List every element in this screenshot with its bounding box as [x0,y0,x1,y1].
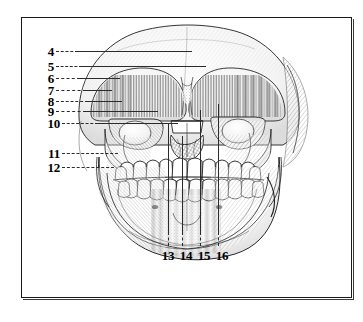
leader-line-5 [56,66,82,67]
callout-number-13: 13 [159,249,177,262]
leader-line-15-dash [200,232,201,246]
leader-line-11 [62,153,118,154]
leader-line-12 [62,167,114,168]
callout-number-15: 15 [195,249,213,262]
callout-number-11: 11 [26,147,60,160]
leader-line-10 [62,123,98,124]
leader-line-7 [56,90,86,91]
leader-line-4 [56,51,78,52]
callout-number-12: 12 [26,161,60,174]
leader-line-8-ext [88,101,122,102]
callout-number-16: 16 [213,249,231,262]
leader-line-15 [200,110,201,232]
leader-line-6-ext [80,78,120,79]
leader-line-6 [56,78,80,79]
leader-line-14 [182,136,183,232]
leader-line-9 [56,111,86,112]
callout-number-10: 10 [26,117,60,130]
leader-line-8 [56,101,88,102]
leader-line-10-ext [98,123,178,124]
leader-line-4-ext [78,51,192,52]
leader-line-7-ext [86,90,112,91]
leader-line-13-dash [168,232,169,246]
figure-root: 4 5 6 7 8 9 10 11 12 13 14 15 16 [0,0,363,322]
leader-line-16 [218,104,219,232]
leader-line-16-dash [218,232,219,246]
leader-line-9-ext [86,111,158,112]
leader-line-13 [168,124,169,232]
callout-number-4: 4 [30,45,54,58]
leader-line-5-ext [82,66,206,67]
leader-line-14-dash [182,232,183,246]
callout-number-14: 14 [177,249,195,262]
